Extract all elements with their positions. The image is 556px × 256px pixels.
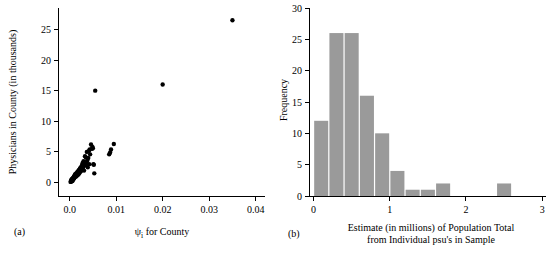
scatter-point — [112, 142, 116, 146]
histogram-bar — [329, 33, 343, 196]
y-ticklabel-a: 5 — [46, 146, 51, 157]
y-tick-group-b — [305, 8, 309, 196]
histogram-svg: 051015202530 0123 Frequency Estimate (in… — [278, 0, 556, 256]
scatter-point — [82, 168, 86, 172]
scatter-point — [109, 147, 113, 151]
y-tick-group-a — [54, 29, 58, 182]
x-ticklabel-group-b: 0123 — [311, 204, 545, 215]
figure-container: 0510152025 0.00.010.020.030.04 Physician… — [0, 0, 556, 256]
y-ticklabel-b: 5 — [297, 159, 302, 170]
panel-b-histogram: 051015202530 0123 Frequency Estimate (in… — [278, 0, 556, 256]
scatter-point — [92, 171, 96, 175]
y-ticklabel-group-b: 051015202530 — [292, 3, 302, 202]
histogram-bar — [406, 190, 420, 196]
y-ticklabel-b: 20 — [292, 65, 302, 76]
scatter-point — [92, 163, 96, 167]
x-ticklabel-b: 1 — [387, 204, 392, 215]
histogram-bars-group — [314, 33, 511, 196]
scatter-plot-svg: 0510152025 0.00.010.020.030.04 Physician… — [0, 0, 278, 256]
y-ticklabel-a: 25 — [41, 24, 51, 35]
y-axis-title-a: Physicians in County (in thousands) — [7, 30, 19, 174]
x-ticklabel-b: 2 — [463, 204, 468, 215]
y-ticklabel-b: 15 — [292, 97, 302, 108]
histogram-bar — [436, 183, 450, 196]
scatter-point — [87, 162, 91, 166]
x-ticklabel-b: 3 — [540, 204, 545, 215]
scatter-point — [230, 18, 234, 22]
scatter-point — [91, 146, 95, 150]
panel-a-scatter: 0510152025 0.00.010.020.030.04 Physician… — [0, 0, 278, 256]
x-tick-group-a — [70, 196, 256, 201]
histogram-bar — [345, 33, 359, 196]
y-ticklabel-b: 25 — [292, 34, 302, 45]
x-ticklabel-a: 0.0 — [63, 204, 76, 215]
x-ticklabel-a: 0.03 — [200, 204, 218, 215]
x-ticklabel-a: 0.01 — [107, 204, 125, 215]
y-ticklabel-b: 30 — [292, 3, 302, 14]
histogram-bar — [360, 96, 374, 196]
y-axis-title-b: Frequency — [278, 79, 289, 121]
histogram-bar — [421, 190, 435, 196]
y-ticklabel-b: 0 — [297, 191, 302, 202]
x-ticklabel-group-a: 0.00.010.020.030.04 — [63, 204, 264, 215]
histogram-bar — [497, 183, 511, 196]
scatter-points-group — [68, 18, 234, 184]
x-ticklabel-a: 0.04 — [247, 204, 265, 215]
x-axis-title-a: ψi for County — [135, 226, 189, 240]
x-axis-title-rest: for County — [143, 226, 189, 237]
x-ticklabel-b: 0 — [311, 204, 316, 215]
y-ticklabel-a: 10 — [41, 116, 51, 127]
y-ticklabel-b: 10 — [292, 128, 302, 139]
y-ticklabel-a: 15 — [41, 85, 51, 96]
x-ticklabel-a: 0.02 — [154, 204, 172, 215]
x-axis-title-b-line2: from Individual psu's in Sample — [367, 234, 495, 245]
x-tick-group-b — [314, 196, 543, 201]
y-ticklabel-group-a: 0510152025 — [41, 24, 51, 188]
y-ticklabel-a: 0 — [46, 177, 51, 188]
scatter-point — [93, 88, 97, 92]
panel-tag-a: (a) — [14, 226, 25, 238]
histogram-bar — [390, 171, 404, 196]
x-axis-title-b-line1: Estimate (in millions) of Population Tot… — [348, 222, 515, 234]
histogram-bar — [314, 121, 328, 196]
panel-tag-b: (b) — [288, 228, 300, 240]
y-ticklabel-a: 20 — [41, 55, 51, 66]
scatter-point — [88, 152, 92, 156]
scatter-point — [160, 82, 164, 86]
histogram-bar — [375, 133, 389, 196]
